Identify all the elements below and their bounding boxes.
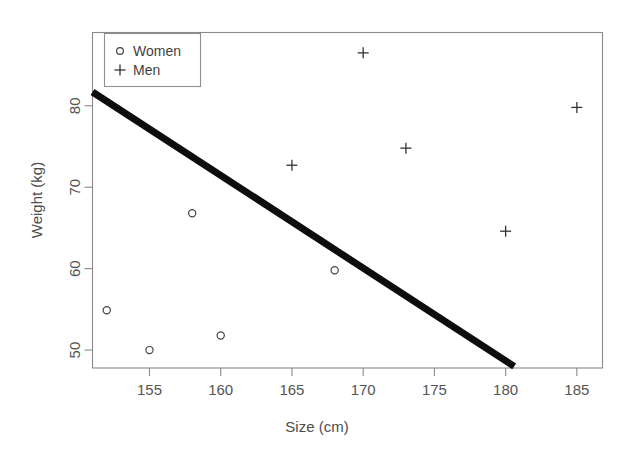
x-tick-label: 160 — [208, 381, 233, 398]
legend-box — [105, 34, 201, 87]
y-tick-label: 80 — [66, 97, 83, 114]
x-axis-tick-labels: 155160165170175180185 — [137, 381, 589, 398]
data-point-men — [358, 47, 369, 58]
data-point-women — [146, 346, 153, 353]
data-point-women — [331, 267, 338, 274]
data-point-women — [217, 332, 224, 339]
legend-label-men: Men — [133, 62, 160, 78]
legend: Women Men — [105, 34, 201, 87]
x-tick-label: 165 — [279, 381, 304, 398]
x-axis-title: Size (cm) — [285, 418, 348, 435]
data-point-men — [286, 160, 297, 171]
data-point-men — [500, 226, 511, 237]
y-tick-label: 50 — [66, 342, 83, 359]
x-tick-label: 170 — [351, 381, 376, 398]
plot-canvas: 155160165170175180185 50607080 Women Men… — [0, 0, 634, 469]
x-tick-label: 175 — [422, 381, 447, 398]
regression-line — [93, 92, 515, 366]
x-tick-label: 185 — [564, 381, 589, 398]
y-tick-label: 60 — [66, 260, 83, 277]
data-series-men — [286, 47, 582, 236]
y-tick-label: 70 — [66, 179, 83, 196]
data-point-women — [189, 210, 196, 217]
y-axis-title: Weight (kg) — [28, 162, 45, 238]
y-axis-ticks — [85, 106, 93, 350]
x-axis-ticks — [149, 368, 576, 376]
x-tick-label: 155 — [137, 381, 162, 398]
legend-label-women: Women — [133, 43, 181, 59]
y-axis-tick-labels: 50607080 — [66, 97, 83, 358]
data-point-men — [400, 143, 411, 154]
regression-line-segment — [93, 92, 515, 366]
data-point-women — [103, 307, 110, 314]
scatter-plot-figure: 155160165170175180185 50607080 Women Men… — [0, 0, 634, 469]
data-point-men — [571, 102, 582, 113]
x-tick-label: 180 — [493, 381, 518, 398]
